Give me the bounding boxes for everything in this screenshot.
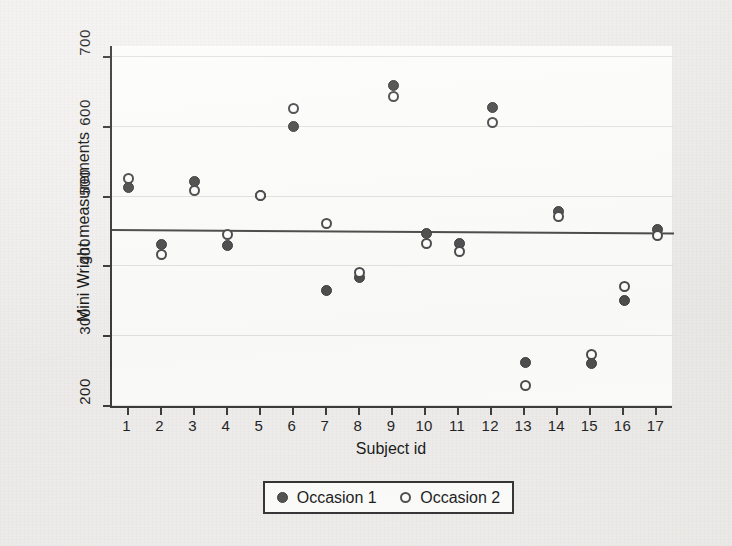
data-point-series2-subject14 xyxy=(553,211,564,222)
data-point-series1-subject2 xyxy=(156,239,167,250)
x-tick-6 xyxy=(292,408,294,415)
x-tick-16 xyxy=(622,408,624,415)
x-tick-3 xyxy=(193,408,195,415)
data-point-series2-subject2 xyxy=(156,249,167,260)
legend-label-occasion-2: Occasion 2 xyxy=(420,489,500,507)
y-axis-title-holder: Mini Wright measurements xyxy=(30,46,60,408)
y-tick-400 xyxy=(103,265,110,267)
y-tick-label-300: 300 xyxy=(76,299,93,343)
gridline-400 xyxy=(112,265,674,266)
x-tick-14 xyxy=(556,408,558,415)
x-tick-10 xyxy=(424,408,426,415)
plot-area xyxy=(110,46,672,408)
y-tick-label-200: 200 xyxy=(76,369,93,413)
x-tick-label-17: 17 xyxy=(635,417,675,434)
y-tick-label-600: 600 xyxy=(76,91,93,135)
y-tick-label-700: 700 xyxy=(76,21,93,65)
legend-label-occasion-1: Occasion 1 xyxy=(297,489,377,507)
data-point-series2-subject10 xyxy=(421,238,432,249)
gridline-700 xyxy=(112,56,674,57)
x-tick-11 xyxy=(457,408,459,415)
x-tick-15 xyxy=(589,408,591,415)
x-tick-7 xyxy=(325,408,327,415)
gridline-500 xyxy=(112,196,674,197)
legend-item-occasion-2: Occasion 2 xyxy=(400,489,500,507)
x-tick-4 xyxy=(226,408,228,415)
y-tick-600 xyxy=(103,126,110,128)
data-point-series2-subject7 xyxy=(321,218,332,229)
data-point-series2-subject1 xyxy=(123,173,134,184)
open-circle-icon xyxy=(400,492,411,503)
reference-line xyxy=(112,229,674,234)
data-point-series2-subject9 xyxy=(388,91,399,102)
x-tick-1 xyxy=(127,408,129,415)
data-point-series2-subject12 xyxy=(487,117,498,128)
data-point-series1-subject6 xyxy=(288,121,299,132)
data-point-series2-subject3 xyxy=(189,185,200,196)
data-point-series2-subject15 xyxy=(586,349,597,360)
x-tick-8 xyxy=(358,408,360,415)
y-tick-500 xyxy=(103,196,110,198)
y-tick-200 xyxy=(103,405,110,407)
data-point-series2-subject6 xyxy=(288,103,299,114)
x-tick-9 xyxy=(391,408,393,415)
y-tick-label-500: 500 xyxy=(76,160,93,204)
data-point-series1-subject4 xyxy=(222,240,233,251)
x-tick-2 xyxy=(160,408,162,415)
filled-circle-icon xyxy=(277,492,288,503)
x-tick-12 xyxy=(490,408,492,415)
data-point-series1-subject9 xyxy=(388,80,399,91)
legend: Occasion 1 Occasion 2 xyxy=(263,481,514,514)
gridline-200 xyxy=(112,405,674,406)
data-point-series2-subject16 xyxy=(619,281,630,292)
data-point-series1-subject13 xyxy=(520,357,531,368)
x-tick-5 xyxy=(259,408,261,415)
y-tick-700 xyxy=(103,56,110,58)
scatter-plot-figure: Mini Wright measurements 200300400500600… xyxy=(0,0,732,546)
data-point-series1-subject16 xyxy=(619,295,630,306)
x-tick-13 xyxy=(523,408,525,415)
x-tick-17 xyxy=(655,408,657,415)
gridline-600 xyxy=(112,126,674,127)
data-point-series2-subject4 xyxy=(222,229,233,240)
y-tick-300 xyxy=(103,335,110,337)
data-point-series2-subject11 xyxy=(454,246,465,257)
legend-item-occasion-1: Occasion 1 xyxy=(277,489,377,507)
gridline-300 xyxy=(112,335,674,336)
data-point-series2-subject13 xyxy=(520,380,531,391)
data-point-series2-subject17 xyxy=(652,230,663,241)
x-axis-title: Subject id xyxy=(110,440,672,458)
data-point-series1-subject12 xyxy=(487,102,498,113)
y-tick-label-400: 400 xyxy=(76,230,93,274)
data-point-series1-subject7 xyxy=(321,285,332,296)
data-point-series2-subject5 xyxy=(255,190,266,201)
